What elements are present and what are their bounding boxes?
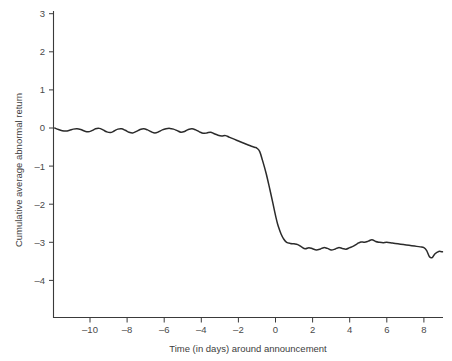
x-axis-tick-label: –10 xyxy=(82,324,98,335)
y-axis-tick-group: 3210–1–2–3–4 xyxy=(34,8,53,286)
x-axis-tick-label: –8 xyxy=(122,324,133,335)
y-axis-tick-label: 0 xyxy=(40,122,45,133)
chart-container: 3210–1–2–3–4 –10–8–6–4–202468 Time (in d… xyxy=(0,0,452,361)
y-axis-tick-label: 2 xyxy=(40,46,45,57)
x-axis-tick-label: 8 xyxy=(421,324,426,335)
y-axis-tick-label: 3 xyxy=(40,8,45,19)
y-axis-tick-label: –2 xyxy=(34,199,45,210)
x-axis-tick-label: –6 xyxy=(159,324,170,335)
x-axis-tick-label: –4 xyxy=(196,324,207,335)
y-axis-title: Cumulative average abnormal return xyxy=(13,93,24,247)
y-axis-tick-label: 1 xyxy=(40,84,45,95)
chart-plot-area: 3210–1–2–3–4 –10–8–6–4–202468 Time (in d… xyxy=(0,0,452,361)
x-axis-tick-label: 6 xyxy=(384,324,389,335)
x-axis-tick-label: 0 xyxy=(273,324,278,335)
x-axis-tick-group: –10–8–6–4–202468 xyxy=(82,318,426,336)
y-axis-tick-label: –3 xyxy=(34,237,45,248)
data-series-line xyxy=(55,128,443,258)
x-axis-title: Time (in days) around announcement xyxy=(169,343,327,354)
x-axis-tick-label: 2 xyxy=(310,324,315,335)
x-axis-tick-label: –2 xyxy=(233,324,244,335)
y-axis-tick-label: –4 xyxy=(34,275,45,286)
y-axis-tick-label: –1 xyxy=(34,161,45,172)
x-axis-tick-label: 4 xyxy=(347,324,352,335)
